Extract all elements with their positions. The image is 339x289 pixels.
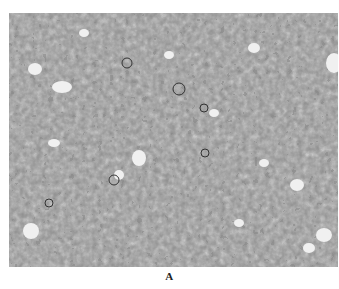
histology-micrograph [9,13,338,267]
micrograph-texture [9,13,338,267]
figure: A [0,0,339,289]
panel-label: A [0,270,339,282]
